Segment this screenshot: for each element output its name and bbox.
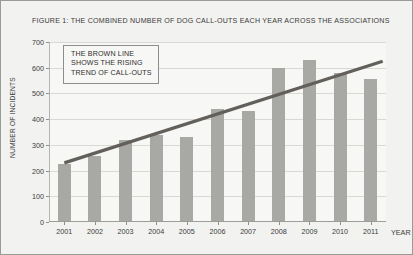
x-tick-label: 2009 xyxy=(301,227,317,236)
x-tick-mark xyxy=(279,222,280,225)
x-tick-mark xyxy=(64,222,65,225)
y-tick-label: 400 xyxy=(32,115,44,124)
x-tick-mark xyxy=(187,222,188,225)
y-tick-mark xyxy=(46,222,49,223)
annotation-line-3: TREND OF CALL-OUTS xyxy=(71,69,152,78)
x-tick-mark xyxy=(218,222,219,225)
x-tick-label: 2008 xyxy=(271,227,287,236)
x-tick-label: 2003 xyxy=(118,227,134,236)
y-tick-label: 500 xyxy=(32,89,44,98)
x-tick-label: 2006 xyxy=(210,227,226,236)
x-tick-mark xyxy=(309,222,310,225)
x-axis-label: YEAR xyxy=(391,228,411,237)
x-tick-label: 2002 xyxy=(87,227,103,236)
y-tick-label: 700 xyxy=(32,38,44,47)
x-tick-label: 2011 xyxy=(363,227,378,236)
y-tick-label: 600 xyxy=(32,63,44,72)
x-tick-label: 2007 xyxy=(240,227,256,236)
figure-container: FIGURE 1: THE COMBINED NUMBER OF DOG CAL… xyxy=(0,0,413,255)
y-tick-label: 100 xyxy=(32,192,44,201)
x-tick-label: 2004 xyxy=(148,227,164,236)
x-tick-mark xyxy=(340,222,341,225)
page-title: FIGURE 1: THE COMBINED NUMBER OF DOG CAL… xyxy=(32,17,390,25)
trend-note-annotation: THE BROWN LINE SHOWS THE RISING TREND OF… xyxy=(63,45,159,84)
y-tick-label: 300 xyxy=(32,140,44,149)
annotation-line-2: SHOWS THE RISING xyxy=(71,59,152,68)
x-tick-label: 2001 xyxy=(56,227,72,236)
x-tick-mark xyxy=(95,222,96,225)
y-axis-label: NUMBER OF INCIDENTS xyxy=(9,58,16,178)
x-tick-label: 2010 xyxy=(332,227,348,236)
x-tick-mark xyxy=(126,222,127,225)
x-tick-mark xyxy=(156,222,157,225)
y-tick-label: 200 xyxy=(32,166,44,175)
annotation-line-1: THE BROWN LINE xyxy=(71,50,152,59)
x-tick-mark xyxy=(371,222,372,225)
x-tick-mark xyxy=(248,222,249,225)
x-tick-label: 2005 xyxy=(179,227,195,236)
y-tick-label: 0 xyxy=(40,218,44,227)
